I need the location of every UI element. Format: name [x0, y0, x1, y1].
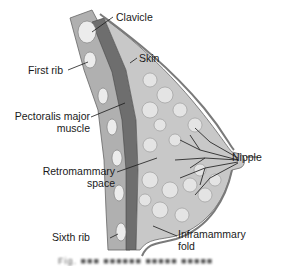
label-retromammary: Retromammary space — [38, 165, 115, 189]
sixth-rib-bone — [116, 223, 126, 241]
label-skin: Skin — [139, 52, 159, 64]
label-inframammary: Inframammary fold — [178, 228, 246, 252]
label-retromammary-line2: space — [38, 177, 115, 189]
label-inframammary-line2: fold — [178, 240, 246, 252]
label-retromammary-line1: Retromammary — [38, 165, 115, 177]
clavicle-bone — [78, 21, 96, 43]
label-sixth-rib: Sixth rib — [52, 231, 90, 243]
label-pectoralis-line1: Pectoralis major — [14, 110, 90, 122]
figure-caption: Fig. ■■■ ■■■■■■ ■■■■■ ■■■■■ — [58, 256, 213, 266]
label-nipple: Nipple — [232, 151, 262, 163]
first-rib-bone — [84, 52, 96, 68]
label-pectoralis-line2: muscle — [14, 122, 90, 134]
label-inframammary-line1: Inframammary — [178, 228, 246, 240]
label-clavicle: Clavicle — [116, 11, 153, 23]
label-pectoralis: Pectoralis major muscle — [14, 110, 90, 134]
label-first-rib: First rib — [28, 64, 63, 76]
